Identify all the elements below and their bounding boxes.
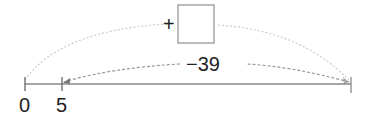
lower-jump-arc-left [64,64,180,82]
arrowhead-right-icon [343,77,349,84]
tick-label-0: 0 [19,95,30,115]
plus-sign: + [163,14,175,34]
tick-label-5: 5 [56,95,67,115]
upper-jump-arc [25,24,168,80]
answer-box[interactable] [178,5,214,43]
arrowhead-left-icon [63,78,70,84]
upper-jump-arc-right [218,25,349,80]
jump-label: −39 [186,54,220,74]
